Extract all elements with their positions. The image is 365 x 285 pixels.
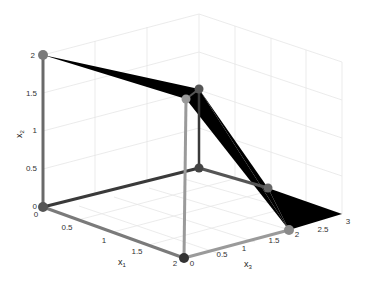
svg-text:1: 1 [242, 244, 247, 253]
point-x1-end-top [182, 95, 191, 104]
svg-text:x3: x3 [244, 259, 253, 270]
svg-text:3: 3 [346, 217, 351, 226]
svg-text:1: 1 [33, 126, 38, 135]
svg-text:0.5: 0.5 [26, 164, 38, 173]
svg-text:x2: x2 [14, 129, 25, 138]
point-back-bottom [195, 164, 204, 173]
x2-axis-label: x2 [14, 129, 25, 138]
point-origin [38, 202, 48, 212]
svg-text:x1: x1 [118, 257, 127, 268]
svg-text:0.5: 0.5 [61, 223, 73, 232]
x1-axis-ticks: 0 0.5 1 1.5 2 [34, 210, 178, 268]
svg-text:1.5: 1.5 [26, 89, 38, 98]
x2-axis-ticks: 2 1.5 1 0.5 0 [26, 51, 38, 211]
svg-text:0: 0 [190, 259, 195, 268]
point-x3-mid [264, 184, 273, 193]
svg-text:1: 1 [102, 236, 107, 245]
svg-text:1.5: 1.5 [131, 247, 143, 256]
x3-axis-ticks: 0 0.5 1 1.5 2 2.5 3 [190, 217, 351, 268]
svg-text:0.5: 0.5 [216, 250, 228, 259]
svg-text:2: 2 [31, 51, 36, 60]
svg-text:0: 0 [34, 210, 39, 219]
point-x1-end [179, 253, 189, 263]
point-back-top [195, 85, 204, 94]
svg-text:1.5: 1.5 [268, 236, 280, 245]
3d-plot: 2 1.5 1 0.5 0 x2 0 0.5 1 1.5 2 x1 0 0.5 … [0, 0, 365, 285]
svg-text:2: 2 [295, 230, 300, 239]
point-x2-top [38, 50, 48, 60]
svg-text:2: 2 [173, 259, 178, 268]
point-x3-end [284, 225, 294, 235]
x3-axis-label: x3 [244, 259, 253, 270]
x1-axis-label: x1 [118, 257, 127, 268]
svg-text:2.5: 2.5 [317, 225, 329, 234]
